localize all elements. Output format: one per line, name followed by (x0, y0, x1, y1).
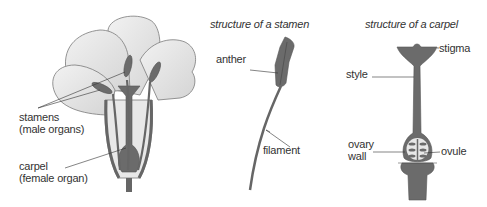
label-wall: wall (348, 150, 366, 162)
carpel-title: structure of a carpel (365, 18, 458, 30)
label-style: style (346, 68, 368, 80)
label-anther: anther (216, 53, 246, 65)
label-carpel: carpel (19, 160, 48, 172)
stamen-title: structure of a stamen (210, 18, 309, 30)
label-filament: filament (263, 144, 300, 156)
label-stamens: stamens (19, 111, 59, 123)
label-ovary: ovary (348, 138, 374, 150)
flower-illustration (38, 16, 196, 192)
stamen-illustration (250, 37, 294, 190)
carpel-illustration (372, 44, 440, 200)
label-stamens-note: (male organs) (19, 123, 84, 135)
label-ovule: ovule (441, 145, 466, 157)
label-stigma: stigma (439, 42, 470, 54)
label-carpel-note: (female organ) (19, 172, 88, 184)
